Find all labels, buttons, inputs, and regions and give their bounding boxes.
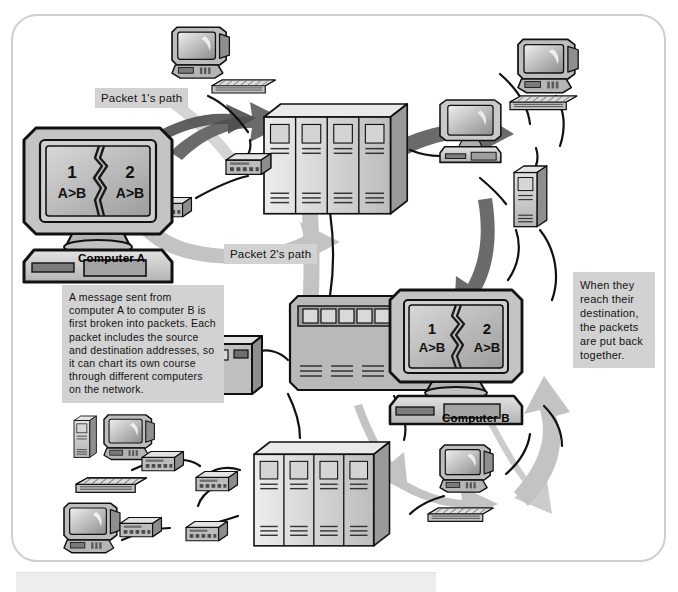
computer-a-packet1-number: 1 (67, 163, 76, 182)
label-packet1-path: Packet 1's path (95, 88, 188, 108)
computer-b-packet2-number: 2 (483, 320, 491, 337)
device-computer-b: 1 A>B 2 A>B (390, 290, 522, 424)
device-router-bl1 (142, 451, 183, 470)
device-bottom-left-tower (74, 416, 96, 457)
device-top-center-workstation (172, 27, 229, 78)
device-router-bl2 (196, 471, 237, 490)
device-upper-server-rack (264, 104, 407, 214)
device-bottom-left-monitor (104, 415, 154, 460)
device-bottom-left-keyboard (76, 478, 146, 492)
device-top-right-crt (518, 39, 578, 92)
label-packet2-path: Packet 2's path (224, 244, 317, 264)
device-bottom-right-workstation (440, 445, 493, 492)
computer-b-packet1-address: A>B (419, 340, 445, 355)
caption-computer-b: Computer B (442, 412, 510, 424)
computer-a-packet2-number: 2 (125, 163, 134, 182)
device-top-center-keyboard (212, 80, 275, 93)
device-bottom-right-keyboard (428, 508, 493, 521)
caption-computer-a: Computer A (78, 252, 145, 264)
device-lower-left-crt (64, 503, 120, 553)
computer-b-packet2-address: A>B (474, 340, 500, 355)
computer-a-packet2-address: A>B (116, 185, 144, 201)
device-lower-server-rack (254, 442, 390, 546)
device-right-server-tower (514, 166, 547, 227)
device-router-bl4 (186, 521, 227, 540)
device-mid-right-workstation (440, 100, 501, 162)
note-message-breakdown: A message sent from computer A to comput… (62, 285, 224, 403)
computer-a-packet1-address: A>B (58, 185, 86, 201)
device-top-right-keyboard (510, 96, 577, 110)
computer-b-packet1-number: 1 (428, 320, 436, 337)
page-edge-strip (16, 572, 436, 592)
note-reassembly: When they reach their destination, the p… (573, 272, 655, 368)
device-router-a1 (226, 154, 271, 175)
device-router-bl3 (120, 517, 161, 536)
